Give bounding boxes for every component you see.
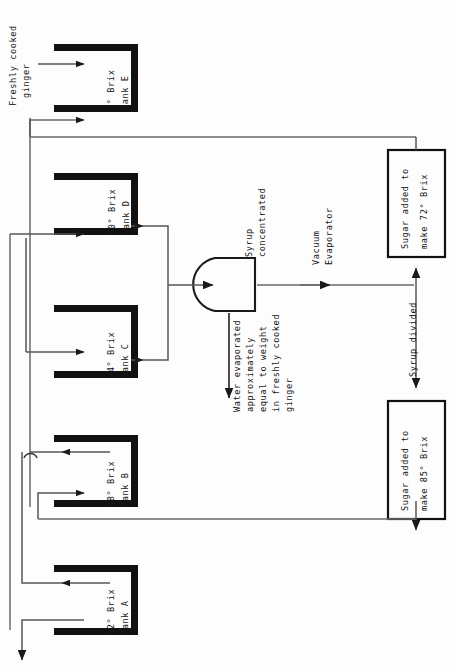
evaporator-vent-line2: approximately [245, 337, 257, 412]
evaporator-vent-line1: Water evaporated [232, 320, 244, 412]
pipe-tankD-outlet [143, 226, 168, 285]
evaporator-vent-line5: ginger [284, 377, 296, 412]
evaporator-vent-line4: in freshly cooked [271, 314, 283, 412]
evaporator-name-line1: Vacuum [311, 230, 323, 265]
process-flow-diagram: Freshly cooked ginger 0° Brix Tank E 30°… [0, 0, 455, 671]
pipe-tankC-outlet [143, 285, 168, 360]
sugar-box-72-line2: make 72° Brix [419, 174, 431, 249]
tank-A-name: Tank A [120, 600, 132, 635]
sugar-box-85-line2: make 85° Brix [419, 436, 431, 511]
diagram-vector-layer [0, 0, 455, 671]
evaporator-vent-line3: equal to weight [258, 325, 270, 412]
split-label: Syrup divided [408, 302, 420, 377]
input-label-line1: Freshly cooked [8, 25, 20, 106]
evaporator-inlet-label-line2: concentrated [257, 188, 269, 257]
tank-B-name: Tank B [120, 472, 132, 507]
tank-D-name: Tank D [121, 200, 133, 235]
tanks-group [54, 44, 138, 635]
tank-E-brix-label: 0° Brix [106, 70, 118, 110]
tank-E-name: Tank E [120, 75, 132, 110]
sugar-box-72-shape [388, 150, 445, 257]
tank-B-brix-label: 58° Brix [106, 461, 118, 507]
tank-C-brix-label: 44° Brix [106, 332, 118, 378]
tank-D-brix-label: 30° Brix [107, 189, 119, 235]
sugar-box-72-line1: Sugar added to [400, 168, 412, 249]
evaporator-inlet-label-line1: Syrup [244, 228, 256, 257]
evaporator-name-line2: Evaporator [324, 207, 336, 265]
sugar-box-85-line1: Sugar added to [400, 430, 412, 511]
pipe-tankA-product-outlet [22, 620, 84, 660]
input-label-line2: ginger [21, 63, 33, 98]
tank-C-name: Tank C [120, 343, 132, 378]
tank-A-brix-label: 72° Brix [106, 589, 118, 635]
pipe-tankA-feed-riser [22, 452, 62, 583]
